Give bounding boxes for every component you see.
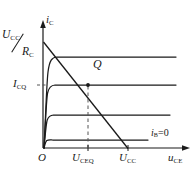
x-axis [43,145,190,151]
x-axis-label: uCE [168,152,182,164]
characteristic-curve-ib-zero [44,140,148,148]
ucc-label: UCC [119,152,136,164]
dc-load-line [44,42,129,149]
y-axis-label: iC [46,14,54,26]
q-point-marker [86,83,90,87]
origin-label: O [38,152,46,163]
figure-canvas [0,0,196,179]
icq-label: ICQ [13,78,26,90]
ib-zero-label: iB=0 [151,128,169,139]
rc-denominator: RC [22,46,34,59]
ucc-over-rc-label: UCC RC [2,29,46,63]
uceq-label: UCEQ [72,152,94,164]
q-point-label: Q [93,58,102,70]
figure-transistor-output-characteristics: iC uCE UCC RC ICQ Q O UCEQ UCC iB=0 [0,0,196,179]
